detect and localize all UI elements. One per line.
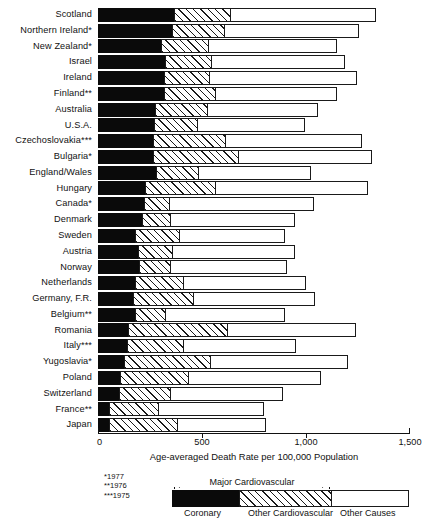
bar-row xyxy=(98,39,337,53)
bar-segment-other-causes xyxy=(225,134,362,148)
bar-segment-coronary xyxy=(98,371,121,385)
bar-row xyxy=(98,134,362,148)
bar-row xyxy=(98,71,357,85)
bar-segment-other-cardiovascular xyxy=(164,71,211,85)
bar-segment-coronary xyxy=(98,355,125,369)
bar-segment-other-causes xyxy=(208,39,337,53)
y-axis-label: Israel xyxy=(69,57,92,66)
x-axis-line xyxy=(98,433,410,434)
bar-segment-other-causes xyxy=(183,276,306,290)
bar-segment-coronary xyxy=(98,24,173,38)
bar-segment-other-causes xyxy=(224,24,359,38)
bar-segment-coronary xyxy=(98,55,166,69)
bar-segment-coronary xyxy=(98,339,128,353)
bar-row xyxy=(98,213,295,227)
bar-segment-other-causes xyxy=(207,103,317,117)
x-axis-right-cap xyxy=(409,428,410,434)
bar-segment-coronary xyxy=(98,197,145,211)
bar-segment-other-causes xyxy=(193,292,316,306)
y-axis-label: Bulgaria* xyxy=(54,152,92,161)
bar-segment-other-cardiovascular xyxy=(142,213,171,227)
y-axis-label: Yugoslavia* xyxy=(43,357,92,366)
bar-segment-coronary xyxy=(98,308,136,322)
bar-row xyxy=(98,150,372,164)
bar-segment-coronary xyxy=(98,103,156,117)
x-axis-tick-label: 1,000 xyxy=(295,437,318,447)
bar-segment-coronary xyxy=(98,292,134,306)
bar-segment-other-cardiovascular xyxy=(165,55,213,69)
bar-segment-other-causes xyxy=(172,245,295,259)
bar-row xyxy=(98,276,306,290)
plot-area xyxy=(98,7,410,433)
bar-segment-other-causes xyxy=(170,213,295,227)
bar-segment-other-causes xyxy=(165,308,286,322)
y-axis-label: Germany, F.R. xyxy=(32,294,92,303)
bar-row xyxy=(98,355,348,369)
bar-row xyxy=(98,371,321,385)
bar-segment-other-causes xyxy=(183,339,295,353)
legend-bracket: Major Cardiovascular xyxy=(172,478,332,489)
y-axis-label: Poland xyxy=(63,373,92,382)
bar-segment-other-causes xyxy=(198,166,311,180)
bar-segment-other-cardiovascular xyxy=(109,402,159,416)
bar-segment-other-causes xyxy=(179,229,285,243)
bar-segment-coronary xyxy=(98,323,129,337)
y-axis-label: France** xyxy=(55,405,92,414)
bar-segment-coronary xyxy=(98,213,143,227)
bar-segment-other-cardiovascular xyxy=(164,87,216,101)
bar-row xyxy=(98,308,285,322)
bar-segment-other-cardiovascular xyxy=(145,181,216,195)
bar-segment-other-cardiovascular xyxy=(127,339,184,353)
footnote-1975: ***1975 xyxy=(104,491,130,500)
bar-row xyxy=(98,197,314,211)
bar-segment-coronary xyxy=(98,387,120,401)
legend-label-coronary: Coronary xyxy=(184,508,221,518)
bar-row xyxy=(98,181,368,195)
bar-row xyxy=(98,24,359,38)
bar-segment-other-causes xyxy=(158,402,264,416)
y-axis-label: Norway xyxy=(60,263,92,272)
bar-segment-other-cardiovascular xyxy=(155,103,208,117)
y-axis-label: Czechoslovakia*** xyxy=(15,136,92,145)
legend-labels: Coronary Other Cardiovascular Other Caus… xyxy=(172,508,410,521)
bar-row xyxy=(98,166,311,180)
bar-segment-other-causes xyxy=(177,418,266,432)
y-axis-label: Denmark xyxy=(54,215,92,224)
bar-segment-other-cardiovascular xyxy=(135,308,165,322)
footnotes: *1977 **1976 ***1975 xyxy=(104,472,130,500)
y-axis-label: Switzerland xyxy=(43,389,92,398)
bar-segment-other-causes xyxy=(188,371,321,385)
bar-row xyxy=(98,55,345,69)
bracket-label: Major Cardiovascular xyxy=(206,477,297,487)
bar-segment-other-cardiovascular xyxy=(161,39,209,53)
y-axis-label: Ireland xyxy=(63,73,92,82)
y-axis-label: Scotland xyxy=(55,10,92,19)
legend-swatch-other-cardiovascular xyxy=(239,490,332,507)
x-axis-tick-label: 0 xyxy=(97,437,102,447)
bar-segment-other-causes xyxy=(230,8,376,22)
bar-segment-other-causes xyxy=(211,55,344,69)
x-axis-title: Age-averaged Death Rate per 100,000 Popu… xyxy=(98,451,410,462)
x-axis-tick-label: 1,500 xyxy=(399,437,422,447)
bar-segment-other-causes xyxy=(169,197,315,211)
footnote-1976: **1976 xyxy=(104,481,130,490)
bar-row xyxy=(98,323,356,337)
bar-segment-other-cardiovascular xyxy=(154,118,198,132)
bar-segment-coronary xyxy=(98,150,154,164)
bar-row xyxy=(98,103,318,117)
x-axis-tick-label: 500 xyxy=(194,437,209,447)
bar-segment-coronary xyxy=(98,229,136,243)
footnote-1977: *1977 xyxy=(104,472,130,481)
y-axis-label: Australia xyxy=(55,105,92,114)
bar-segment-other-cardiovascular xyxy=(144,197,170,211)
chart-root: ScotlandNorthern Ireland*New Zealand*Isr… xyxy=(0,0,446,527)
bar-row xyxy=(98,402,264,416)
y-axis-labels: ScotlandNorthern Ireland*New Zealand*Isr… xyxy=(0,7,96,433)
y-axis-label: Italy*** xyxy=(64,341,92,350)
bar-segment-other-causes xyxy=(170,260,288,274)
legend-swatch-other-causes xyxy=(331,490,409,507)
bar-segment-other-causes xyxy=(227,323,356,337)
bar-row xyxy=(98,339,296,353)
bar-segment-other-cardiovascular xyxy=(138,245,173,259)
bar-segment-other-cardiovascular xyxy=(109,418,178,432)
